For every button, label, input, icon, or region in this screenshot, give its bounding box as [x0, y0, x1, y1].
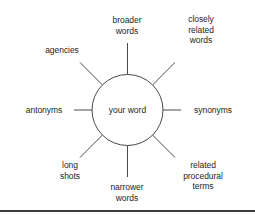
spoke-line-long-shots: [80, 135, 102, 157]
spoke-line-agencies: [80, 63, 102, 85]
node-label-agencies: agencies: [45, 45, 79, 56]
node-label-broader-words: broader words: [113, 15, 142, 36]
node-label-narrower-words: narrower words: [110, 182, 143, 203]
spoke-line-related-procedural-terms: [153, 135, 175, 157]
node-label-synonyms: synonyms: [194, 105, 232, 116]
spoke-line-closely-related-words: [153, 63, 175, 85]
node-label-related-procedural-terms: related procedural terms: [183, 160, 223, 192]
node-label-long-shots: long shots: [60, 160, 80, 181]
diagram-canvas: your word broader words closely related …: [0, 0, 255, 222]
node-label-closely-related-words: closely related words: [188, 14, 214, 46]
center-node-label: your word: [109, 105, 146, 116]
node-label-antonyms: antonyms: [26, 105, 62, 116]
